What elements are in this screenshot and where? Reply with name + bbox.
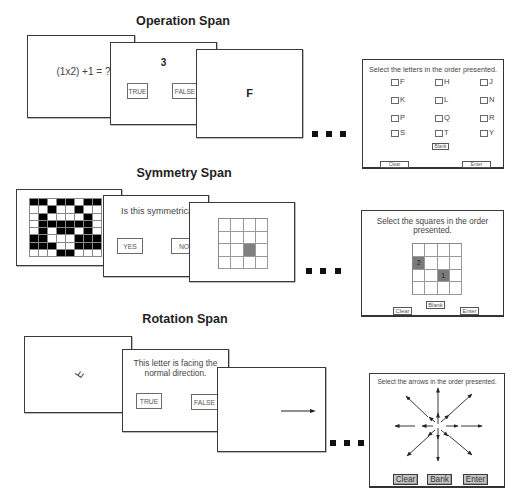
letter-option-l[interactable]: L: [435, 96, 448, 104]
true-button[interactable]: TRUE: [136, 393, 162, 409]
checkbox[interactable]: [391, 79, 399, 86]
clear-button[interactable]: Clear: [393, 307, 412, 315]
grid-cell: [84, 235, 93, 242]
enter-button[interactable]: Enter: [462, 161, 491, 168]
grid-cell: [244, 219, 256, 232]
grid-cell[interactable]: [413, 270, 425, 283]
checkbox[interactable]: [391, 115, 399, 122]
clear-button[interactable]: Clear: [380, 161, 409, 168]
true-button[interactable]: TRUE: [127, 83, 148, 99]
blank-button[interactable]: Bank: [427, 474, 452, 485]
arrow-long-down-right-icon[interactable]: [448, 435, 472, 455]
recall-instruction: Select the letters in the order presente…: [363, 65, 503, 74]
grid-cell[interactable]: [450, 244, 462, 257]
grid-cell: [30, 221, 39, 228]
letter-option-h[interactable]: H: [435, 78, 449, 86]
false-button[interactable]: FALSE: [172, 83, 198, 99]
symmetry-span-title: Symmetry Span: [114, 166, 254, 181]
recall-instruction-line2: presented.: [362, 226, 503, 236]
grid-cell: [231, 219, 243, 232]
grid-cell: [39, 228, 48, 235]
recall-square-grid[interactable]: 21: [412, 243, 462, 295]
grid-cell: [256, 257, 268, 270]
grid-cell: [75, 243, 84, 250]
grid-cell: [84, 250, 93, 257]
letter-option-s[interactable]: S: [391, 129, 405, 137]
letter-option-k[interactable]: K: [391, 96, 405, 104]
memory-letter: F: [197, 87, 302, 100]
grid-cell[interactable]: 2: [413, 257, 425, 270]
enter-button[interactable]: Enter: [463, 474, 488, 485]
grid-cell[interactable]: [413, 244, 425, 257]
checkbox[interactable]: [480, 79, 488, 86]
false-button[interactable]: FALSE: [191, 394, 218, 410]
grid-cell[interactable]: [438, 257, 450, 270]
grid-cell: [84, 206, 93, 213]
grid-cell: [39, 199, 48, 206]
letter-option-t[interactable]: T: [435, 129, 449, 137]
grid-cell: [93, 235, 102, 242]
checkbox[interactable]: [480, 97, 488, 104]
clear-button[interactable]: Clear: [393, 474, 418, 485]
arrow-short-up-right-icon[interactable]: [441, 415, 449, 422]
checkbox[interactable]: [391, 130, 399, 137]
grid-cell: [93, 206, 102, 213]
symmetry-question: Is this symmetrical: [121, 205, 195, 217]
grid-cell: [30, 214, 39, 221]
checkbox[interactable]: [391, 97, 399, 104]
letter-label: Q: [444, 114, 450, 122]
letter-label: F: [400, 78, 405, 86]
letter-option-r[interactable]: R: [480, 114, 494, 122]
grid-cell: [84, 221, 93, 228]
checkbox[interactable]: [435, 79, 443, 86]
grid-cell: [66, 250, 75, 257]
checkbox[interactable]: [435, 130, 443, 137]
yes-button[interactable]: YES: [117, 238, 143, 254]
arrow-long-up-right-icon[interactable]: [449, 394, 472, 415]
grid-cell: [219, 257, 231, 270]
grid-cell: [244, 232, 256, 245]
letter-label: N: [489, 96, 494, 104]
checkbox[interactable]: [435, 97, 443, 104]
grid-cell: [256, 244, 268, 257]
letter-option-n[interactable]: N: [480, 96, 494, 104]
grid-cell[interactable]: [450, 270, 462, 283]
checkbox[interactable]: [480, 115, 488, 122]
grid-cell[interactable]: [425, 244, 437, 257]
letter-option-y[interactable]: Y: [480, 129, 494, 137]
arrow-selection-array: [370, 374, 506, 474]
enter-button[interactable]: Enter: [460, 307, 479, 315]
letter-option-j[interactable]: J: [480, 78, 493, 86]
grid-cell[interactable]: [425, 282, 437, 295]
grid-cell: [93, 250, 102, 257]
arrow-right-icon: [218, 368, 327, 453]
grid-cell: [39, 235, 48, 242]
arrow-long-up-left-icon[interactable]: [406, 396, 428, 417]
blank-button[interactable]: Blank: [426, 301, 445, 309]
grid-cell: [219, 244, 231, 257]
grid-cell[interactable]: [438, 282, 450, 295]
checkbox[interactable]: [480, 130, 488, 137]
rotated-letter: F: [73, 368, 87, 380]
arrow-short-up-left-icon[interactable]: [429, 417, 435, 422]
arrow-short-down-right-icon[interactable]: [441, 430, 448, 436]
grid-cell: [57, 221, 66, 228]
ellipsis-dot: [330, 440, 336, 446]
letter-option-p[interactable]: P: [391, 114, 405, 122]
grid-cell[interactable]: [450, 257, 462, 270]
grid-cell: [39, 250, 48, 257]
grid-cell: [231, 257, 243, 270]
grid-cell[interactable]: [450, 282, 462, 295]
arrow-long-down-left-icon[interactable]: [407, 436, 429, 456]
grid-cell[interactable]: [413, 282, 425, 295]
checkbox[interactable]: [435, 115, 443, 122]
grid-cell[interactable]: [425, 270, 437, 283]
arrow-short-down-left-icon[interactable]: [428, 430, 435, 436]
blank-button[interactable]: Blank: [432, 143, 449, 150]
grid-cell[interactable]: [438, 244, 450, 257]
grid-cell[interactable]: [425, 257, 437, 270]
letter-option-q[interactable]: Q: [435, 114, 450, 122]
grid-cell: [66, 235, 75, 242]
grid-cell[interactable]: 1: [438, 270, 450, 283]
letter-option-f[interactable]: F: [391, 78, 405, 86]
